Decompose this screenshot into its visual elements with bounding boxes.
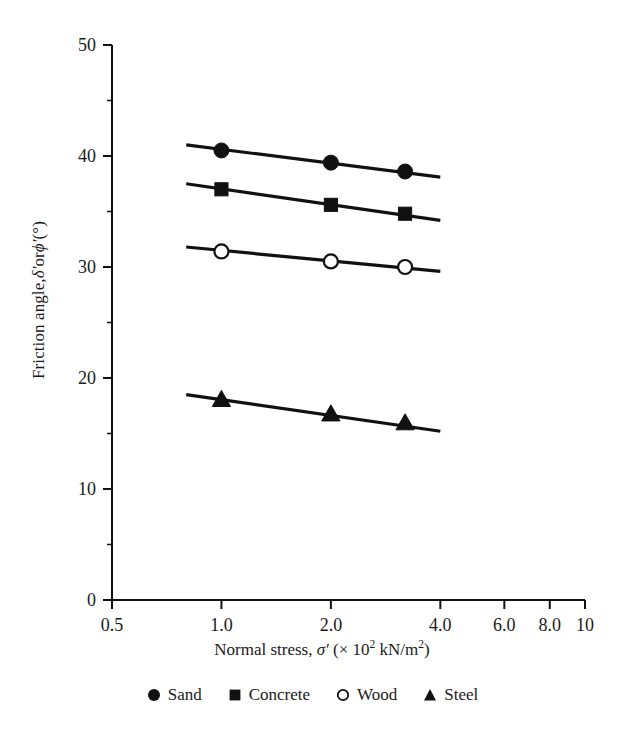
series-point-wood-2	[324, 254, 338, 268]
y-axis-title-suffix: (°)	[29, 221, 49, 239]
legend-marker-filled-triangle-icon	[423, 688, 437, 702]
y-tick-label-0: 0	[46, 591, 96, 609]
x-tick-label-0.5: 0.5	[101, 616, 124, 634]
legend-label-wood: Wood	[357, 686, 397, 703]
x-axis-title-tail: )	[424, 640, 430, 659]
series-point-concrete-2	[324, 198, 337, 211]
x-tick-label-6.0: 6.0	[493, 616, 516, 634]
x-tick-label-10: 10	[576, 616, 594, 634]
chart-plot-area	[0, 0, 625, 734]
legend-item-steel: Steel	[423, 686, 478, 703]
y-tick-label-50: 50	[46, 36, 96, 54]
legend-label-sand: Sand	[168, 686, 202, 703]
friction-angle-chart: Friction angle, δ′ or ϕ′ (°) Normal stre…	[0, 0, 625, 734]
y-tick-label-10: 10	[46, 480, 96, 498]
series-point-concrete-3	[399, 207, 412, 220]
y-tick-label-30: 30	[46, 258, 96, 276]
chart-legend: SandConcreteWoodSteel	[0, 686, 625, 703]
series-point-sand-2	[323, 155, 338, 170]
series-point-concrete-1	[215, 183, 228, 196]
legend-marker-filled-square-icon	[228, 688, 242, 702]
legend-label-concrete: Concrete	[249, 686, 310, 703]
y-axis-symbol-phi: ϕ′	[29, 239, 49, 252]
series-point-sand-3	[398, 164, 413, 179]
x-axis-title: Normal stress, σ′ (× 102 kN/m2)	[112, 640, 532, 660]
x-tick-label-2.0: 2.0	[320, 616, 343, 634]
series-point-wood-1	[214, 244, 228, 258]
y-tick-label-40: 40	[46, 147, 96, 165]
x-tick-label-4.0: 4.0	[429, 616, 452, 634]
legend-marker-filled-circle-icon	[147, 688, 161, 702]
x-axis-title-units: kN/m	[375, 640, 418, 659]
x-axis-title-prefix: Normal stress,	[214, 640, 316, 659]
x-tick-label-8.0: 8.0	[539, 616, 562, 634]
x-axis-symbol-sigma: σ′	[317, 640, 329, 659]
series-point-steel-3	[396, 414, 414, 430]
series-point-steel-2	[322, 405, 340, 421]
series-point-wood-3	[398, 260, 412, 274]
series-point-sand-1	[214, 143, 229, 158]
x-tick-label-1.0: 1.0	[210, 616, 233, 634]
legend-item-sand: Sand	[147, 686, 202, 703]
y-tick-label-20: 20	[46, 369, 96, 387]
x-axis-title-open: (× 10	[329, 640, 370, 659]
legend-label-steel: Steel	[444, 686, 478, 703]
y-axis-title: Friction angle, δ′ or ϕ′ (°)	[22, 0, 56, 600]
legend-item-concrete: Concrete	[228, 686, 310, 703]
legend-item-wood: Wood	[336, 686, 397, 703]
y-axis-title-prefix: Friction angle,	[29, 278, 49, 379]
legend-marker-open-circle-icon	[336, 688, 350, 702]
